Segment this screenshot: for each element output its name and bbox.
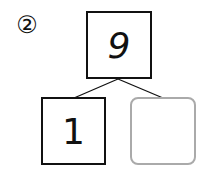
whole-box: 9 xyxy=(86,11,152,79)
part-left-box: 1 xyxy=(41,97,106,165)
whole-value: 9 xyxy=(108,25,131,66)
part-left-value: 1 xyxy=(62,111,85,152)
part-right-answer-box[interactable] xyxy=(130,97,196,165)
